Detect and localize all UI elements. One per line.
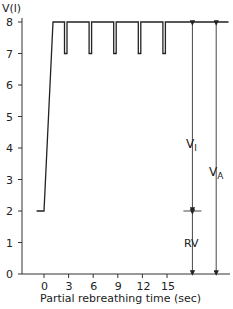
y-tick-label: 8	[6, 16, 13, 29]
axes	[22, 18, 230, 274]
vi-label: VI	[186, 137, 197, 153]
y-tick-label: 1	[6, 237, 13, 250]
y-axis-title: V(l)	[2, 2, 21, 15]
y-axis-ticks: 012345678	[6, 16, 22, 281]
y-tick-label: 4	[6, 142, 13, 155]
y-tick-label: 6	[6, 79, 13, 92]
x-axis-title: Partial rebreathing time (sec)	[40, 292, 201, 305]
volume-chart: V(l) 012345678 03691215 Partial rebreath…	[0, 0, 233, 309]
volume-series-line	[37, 22, 229, 211]
x-axis-ticks: 03691215	[41, 274, 175, 293]
y-tick-label: 2	[6, 205, 13, 218]
y-tick-label: 7	[6, 48, 13, 61]
y-tick-label: 5	[6, 111, 13, 124]
va-label: VA	[209, 165, 224, 181]
y-tick-label: 0	[6, 268, 13, 281]
rv-label: RV	[184, 237, 199, 250]
y-tick-label: 3	[6, 174, 13, 187]
